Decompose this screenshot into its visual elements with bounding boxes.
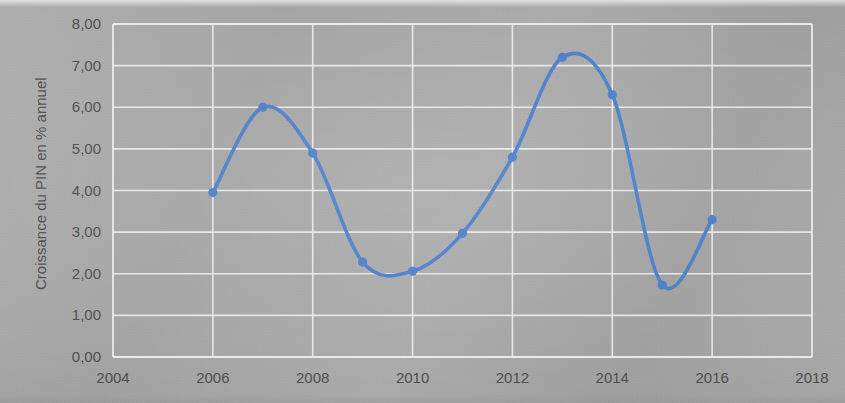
y-axis-tick-label: 6,00: [72, 98, 101, 115]
y-axis-tick-label: 3,00: [72, 223, 101, 240]
x-axis-tick-label: 2018: [795, 369, 828, 386]
data-series-group: [208, 53, 716, 290]
series-data-point: [458, 229, 467, 238]
series-data-point: [608, 90, 617, 99]
x-axis-tick-label: 2004: [96, 369, 129, 386]
y-axis-tick-label: 4,00: [72, 182, 101, 199]
x-axis-tick-label: 2014: [596, 369, 629, 386]
series-data-point: [508, 153, 517, 162]
series-data-point: [658, 280, 667, 289]
series-data-point: [558, 53, 567, 62]
line-chart-plot: 0,001,002,003,004,005,006,007,008,00 200…: [0, 0, 845, 403]
x-axis-tick-labels: 20042006200820102012201420162018: [96, 369, 828, 386]
series-data-point: [208, 188, 217, 197]
x-axis-tick-label: 2012: [496, 369, 529, 386]
series-line: [213, 53, 712, 288]
x-axis-tick-label: 2016: [695, 369, 728, 386]
y-axis-tick-label: 8,00: [72, 15, 101, 32]
series-data-point: [358, 258, 367, 267]
y-axis-tick-label: 1,00: [72, 306, 101, 323]
x-axis-tick-label: 2008: [296, 369, 329, 386]
series-data-point: [708, 215, 717, 224]
y-axis-tick-label: 2,00: [72, 265, 101, 282]
y-axis-title: Croissance du PIN en % annuel: [32, 77, 49, 290]
series-data-point: [408, 267, 417, 276]
chart-figure: 0,001,002,003,004,005,006,007,008,00 200…: [0, 0, 845, 403]
series-data-point: [258, 103, 267, 112]
y-axis-tick-labels: 0,001,002,003,004,005,006,007,008,00: [72, 15, 101, 365]
x-axis-tick-label: 2010: [396, 369, 429, 386]
y-axis-tick-label: 7,00: [72, 57, 101, 74]
y-axis-tick-label: 0,00: [72, 348, 101, 365]
series-data-point: [308, 148, 317, 157]
y-axis-tick-label: 5,00: [72, 140, 101, 157]
y-gridlines: [113, 24, 812, 357]
x-axis-tick-label: 2006: [196, 369, 229, 386]
